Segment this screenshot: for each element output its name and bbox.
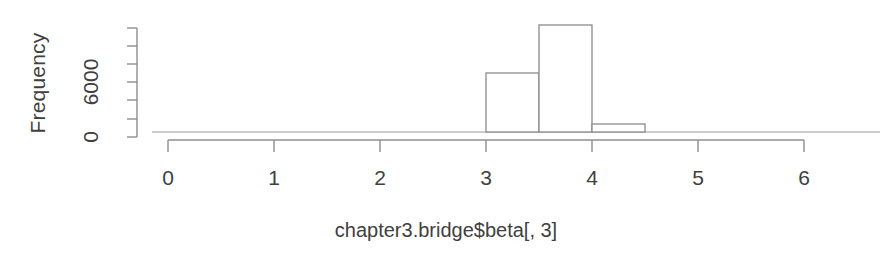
x-axis-tick-label-1: 1 bbox=[259, 166, 289, 190]
histogram-bars bbox=[486, 25, 645, 132]
x-axis-title: chapter3.bridge$beta[, 3] bbox=[0, 219, 892, 242]
y-axis bbox=[127, 28, 137, 137]
histogram-bar-4.0-4.5 bbox=[592, 124, 645, 132]
x-axis-tick-label-2: 2 bbox=[365, 166, 395, 190]
x-axis-tick-label-4: 4 bbox=[577, 166, 607, 190]
x-axis-tick-label-6: 6 bbox=[789, 166, 819, 190]
x-axis-tick-label-0: 0 bbox=[153, 166, 183, 190]
x-axis bbox=[168, 140, 804, 152]
histogram-bar-3.0-3.5 bbox=[486, 73, 539, 132]
x-axis-tick-label-3: 3 bbox=[471, 166, 501, 190]
histogram-plot: Frequency 6000 0 bbox=[0, 0, 892, 267]
histogram-bar-3.5-4.0 bbox=[539, 25, 592, 132]
x-axis-tick-label-5: 5 bbox=[683, 166, 713, 190]
